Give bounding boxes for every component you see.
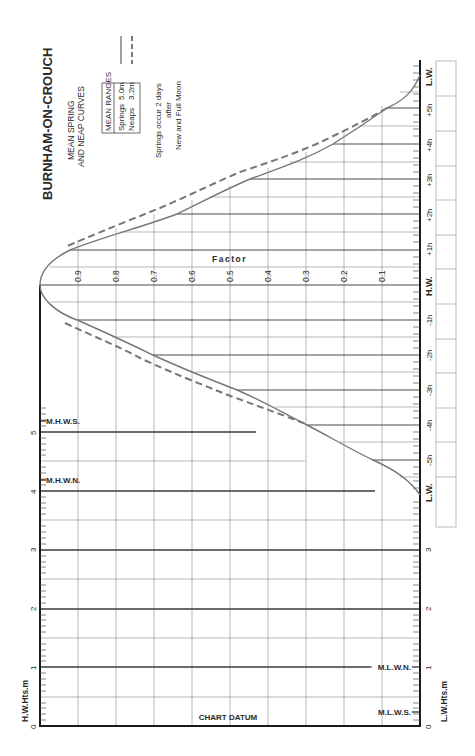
svg-text:5.0m: 5.0m: [117, 82, 126, 100]
svg-text:1: 1: [424, 665, 433, 670]
factor-tick: 0.6: [187, 270, 197, 282]
tidal-curve-chart: 0.9 0.8 0.7 0.6 0.5 0.4 0.3 0.2 0.1 Fact…: [0, 0, 475, 756]
factor-gridlines: [78, 106, 382, 726]
svg-text:+4h: +4h: [425, 138, 434, 152]
svg-text:+2h: +2h: [425, 208, 434, 222]
mhwn-label: M.H.W.N.: [46, 476, 80, 485]
subtitle-line1: MEAN SPRING: [66, 100, 76, 160]
height-tick-labels: 0 1 2 3 4 5 0 1 2 3: [29, 430, 433, 729]
lw-label-top: L.W.: [424, 68, 434, 87]
hw-label: H.W.: [424, 277, 434, 297]
factor-axis-label: Factor: [212, 254, 247, 264]
svg-text:+5h: +5h: [425, 103, 434, 117]
svg-text:2: 2: [29, 606, 38, 611]
lw-label-bottom: L.W.: [424, 484, 434, 503]
neap-curve-lower: [65, 323, 306, 424]
factor-tick: 0.2: [339, 270, 349, 282]
factor-tick: 0.9: [73, 270, 83, 282]
right-axis-label: L.W.Hts.m: [439, 680, 449, 722]
svg-text:-5h: -5h: [425, 454, 434, 466]
svg-text:0: 0: [424, 724, 433, 729]
time-labels: L.W. +5h +4h +3h +2h +1h H.W. -1h -2h -3…: [424, 68, 434, 503]
legend-header: MEAN RANGES: [104, 72, 113, 131]
time-strip: [436, 61, 456, 527]
note-line3: New and Full Moon: [174, 81, 183, 150]
svg-text:5: 5: [29, 430, 38, 435]
svg-text:-3h: -3h: [425, 384, 434, 396]
chart-datum-label: CHART DATUM: [199, 713, 258, 722]
subtitle-line2: AND NEAP CURVES: [76, 86, 86, 167]
factor-tick: 0.3: [301, 270, 311, 282]
factor-tick: 0.7: [149, 270, 159, 282]
factor-tick: 0.4: [263, 270, 273, 282]
chart-title: BURNHAM-ON-CROUCH: [40, 48, 55, 200]
mlws-label: M.L.W.S.: [378, 708, 411, 717]
svg-text:2: 2: [424, 606, 433, 611]
factor-tick: 0.8: [111, 270, 121, 282]
left-axis-label: H.W.Hts.m: [20, 680, 30, 722]
svg-text:1: 1: [29, 665, 38, 670]
factor-tick-labels: 0.9 0.8 0.7 0.6 0.5 0.4 0.3 0.2 0.1: [73, 270, 387, 282]
note-line1: Springs occur 2 days: [154, 83, 163, 158]
svg-text:Springs: Springs: [117, 104, 126, 131]
svg-text:-4h: -4h: [425, 419, 434, 431]
svg-text:4: 4: [29, 489, 38, 494]
mhws-label: M.H.W.S.: [46, 417, 80, 426]
svg-text:3.2m: 3.2m: [127, 82, 136, 100]
factor-tick: 0.1: [377, 270, 387, 282]
note-line2: after: [164, 102, 173, 118]
svg-text:3: 3: [29, 547, 38, 552]
svg-text:+1h: +1h: [425, 242, 434, 256]
svg-text:+3h: +3h: [425, 173, 434, 187]
svg-text:3: 3: [424, 547, 433, 552]
svg-text:-2h: -2h: [425, 349, 434, 361]
mlwn-label: M.L.W.N.: [378, 663, 411, 672]
neap-curve: [65, 108, 387, 247]
factor-tick: 0.5: [225, 270, 235, 282]
legend-box: MEAN RANGES Springs 5.0m Neaps 3.2m: [102, 72, 140, 133]
svg-text:Neaps: Neaps: [127, 108, 136, 131]
svg-text:-1h: -1h: [425, 314, 434, 326]
svg-text:0: 0: [29, 724, 38, 729]
